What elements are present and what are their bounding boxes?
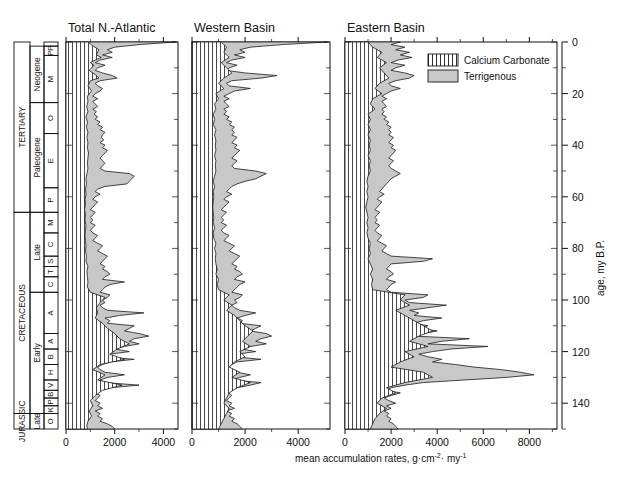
x-tick-label: 0	[189, 436, 195, 448]
legend-swatch-0	[428, 54, 458, 66]
legend-swatch-1	[428, 70, 458, 82]
x-tick-label: 0	[63, 436, 69, 448]
strat-label: PP	[47, 46, 56, 56]
strat-label: B	[47, 392, 56, 397]
strat-label: S	[47, 259, 56, 264]
strat-label: P	[47, 197, 56, 202]
panel-title-2: Eastern Basin	[347, 21, 425, 35]
x-tick-label: 2000	[103, 436, 127, 448]
x-tick-label: 4000	[152, 436, 176, 448]
panel-title-0: Total N.-Atlantic	[68, 21, 156, 35]
strat-cell	[44, 42, 58, 46]
x-tick-label: 4000	[425, 436, 449, 448]
strat-label: Late	[32, 244, 42, 261]
strat-label: A	[47, 309, 56, 315]
strat-label: JURASSIC	[17, 401, 27, 442]
strat-label: C	[47, 281, 56, 287]
x-tick-label: 8000	[518, 436, 542, 448]
age-axis-tick-label: 80	[572, 242, 584, 254]
strat-label: V	[47, 382, 56, 388]
strat-label: C	[47, 241, 56, 247]
x-tick-label: 0	[342, 436, 348, 448]
legend-label-0: Calcium Carbonate	[464, 55, 550, 66]
strat-label: TERTIARY	[17, 106, 27, 148]
strat-label: Paleogene	[32, 137, 42, 177]
x-tick-label: 4000	[286, 436, 310, 448]
strat-label: H	[47, 369, 56, 374]
legend-label-1: Terrigenous	[464, 71, 516, 82]
strat-label: T	[47, 269, 56, 274]
strat-label: K	[47, 407, 56, 412]
strat-label: E	[47, 158, 56, 163]
panel-title-1: Western Basin	[194, 21, 275, 35]
x-axis-label: mean accumulation rates, g·cm-2· my-1	[295, 452, 467, 464]
strat-label: M	[47, 219, 56, 225]
strat-label: O	[47, 418, 56, 424]
age-axis-tick-label: 140	[572, 397, 590, 409]
age-axis-tick-label: 100	[572, 294, 590, 306]
age-axis-tick-label: 0	[572, 36, 578, 48]
x-tick-label: 6000	[472, 436, 496, 448]
strat-label: M	[47, 76, 56, 82]
strat-label: Neogene	[32, 57, 42, 91]
age-axis-label: age, my B.P.	[595, 240, 606, 296]
strat-label: Early	[32, 343, 42, 363]
age-axis-tick-label: 40	[572, 139, 584, 151]
age-axis-tick-label: 20	[572, 88, 584, 100]
x-tick-label: 2000	[379, 436, 403, 448]
accumulation-rates-figure: TERTIARYCRETACEOUSJURASSICNeogenePaleoge…	[0, 0, 623, 485]
strat-label: P	[47, 399, 56, 404]
strat-label: B	[47, 354, 56, 359]
strat-label: A	[47, 338, 56, 344]
strat-label: Late	[32, 413, 42, 430]
strat-label: O	[47, 115, 56, 121]
x-tick-label: 2000	[233, 436, 257, 448]
figure-root: TERTIARYCRETACEOUSJURASSICNeogenePaleoge…	[0, 0, 623, 485]
age-axis-tick-label: 60	[572, 191, 584, 203]
age-axis-tick-label: 120	[572, 346, 590, 358]
strat-label: CRETACEOUS	[17, 284, 27, 342]
